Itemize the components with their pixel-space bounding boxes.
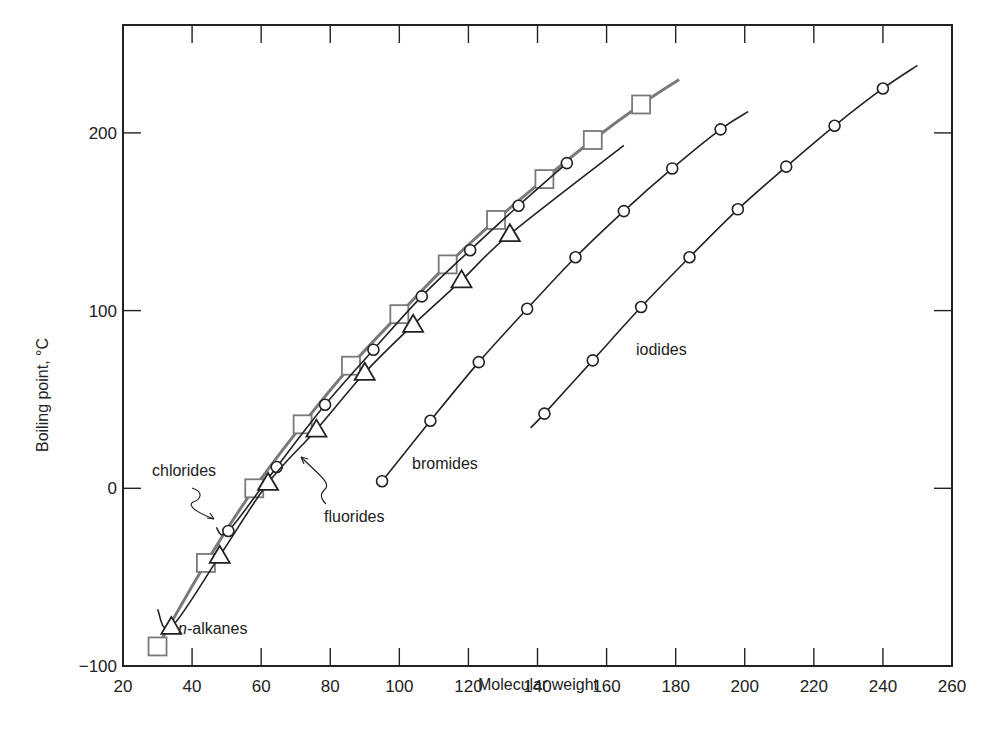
- x-tick-label: 100: [385, 677, 413, 696]
- y-tick-label: −100: [79, 657, 117, 676]
- circle-marker: [667, 163, 678, 174]
- circle-marker: [513, 200, 524, 211]
- y-axis-title: Boiling point, °C: [34, 338, 51, 452]
- axis-ticks: [123, 25, 952, 666]
- circle-marker: [570, 252, 581, 263]
- series-label-chlorides: chlorides: [152, 462, 216, 479]
- circle-marker: [587, 355, 598, 366]
- circle-marker: [732, 204, 743, 215]
- x-tick-label: 220: [800, 677, 828, 696]
- x-axis-title: Molecular weight: [478, 676, 599, 693]
- alkanes-text: -alkanes: [187, 620, 247, 637]
- boiling-point-chart: 20406080100120140160180200220240260−1000…: [0, 0, 986, 747]
- series-label-bromides: bromides: [412, 455, 478, 472]
- circle-marker: [223, 525, 234, 536]
- circle-marker: [465, 245, 476, 256]
- circle-marker: [320, 399, 331, 410]
- circle-marker: [715, 124, 726, 135]
- x-tick-label: 200: [731, 677, 759, 696]
- series-fluorides: [158, 145, 624, 634]
- circle-marker: [684, 252, 695, 263]
- circle-marker: [368, 344, 379, 355]
- circle-marker: [561, 158, 572, 169]
- circle-marker: [636, 302, 647, 313]
- circle-marker: [522, 303, 533, 314]
- y-tick-label: 0: [108, 479, 117, 498]
- plot-border: [123, 25, 952, 666]
- series-layer: [149, 65, 918, 655]
- chlorides-pointer-arrow: [191, 488, 214, 519]
- series-label-fluorides: fluorides: [324, 508, 384, 525]
- square-marker: [584, 131, 602, 149]
- square-marker: [149, 637, 167, 655]
- series-n-alkanes: [149, 80, 680, 656]
- circle-marker: [618, 206, 629, 217]
- circle-marker: [473, 357, 484, 368]
- italic-n: n: [178, 620, 187, 637]
- circle-marker: [377, 476, 388, 487]
- x-tick-label: 260: [938, 677, 966, 696]
- x-tick-label: 20: [114, 677, 133, 696]
- circle-marker: [539, 408, 550, 419]
- circle-marker: [781, 161, 792, 172]
- circle-marker: [877, 83, 888, 94]
- x-tick-label: 180: [661, 677, 689, 696]
- square-marker: [342, 357, 360, 375]
- circle-marker: [829, 120, 840, 131]
- y-tick-label: 100: [89, 302, 117, 321]
- series-curve: [158, 80, 680, 647]
- series-label-iodides: iodides: [636, 341, 687, 358]
- square-marker: [535, 170, 553, 188]
- x-tick-label: 40: [183, 677, 202, 696]
- x-tick-label: 240: [869, 677, 897, 696]
- series-curve: [158, 145, 624, 629]
- y-tick-label: 200: [89, 124, 117, 143]
- fluorides-pointer-arrow: [301, 457, 327, 504]
- x-tick-label: 60: [252, 677, 271, 696]
- circle-marker: [416, 291, 427, 302]
- series-iodides: [531, 65, 918, 428]
- series-curve: [531, 65, 918, 428]
- circle-marker: [425, 415, 436, 426]
- square-marker: [632, 95, 650, 113]
- x-tick-label: 80: [321, 677, 340, 696]
- series-label-n-alkanes: n-alkanes: [178, 620, 247, 637]
- plot-frame: [123, 25, 952, 666]
